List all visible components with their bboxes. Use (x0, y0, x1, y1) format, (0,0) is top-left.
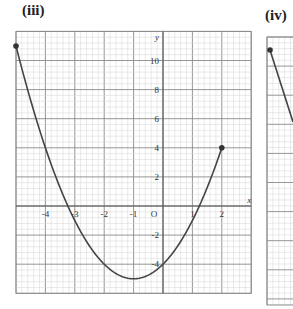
x-tick-label: -1 (130, 209, 138, 219)
curve-iv (267, 47, 293, 122)
y-tick-label: 2 (155, 172, 160, 182)
grid-iv (267, 37, 293, 305)
endpoint-dot (13, 43, 19, 49)
parabola-curve (16, 46, 222, 279)
chart-iii: -4-3-2-1O12108642-2-4xy (0, 0, 293, 309)
y-tick-label: 4 (155, 143, 160, 153)
y-axis-label: y (154, 32, 159, 42)
x-tick-label: -4 (42, 209, 50, 219)
x-tick-label: 2 (220, 209, 225, 219)
y-tick-label: 10 (150, 56, 160, 66)
x-tick-label: O (151, 209, 158, 219)
y-tick-label: 6 (155, 114, 160, 124)
x-tick-label: -2 (100, 209, 108, 219)
y-tick-label: -2 (152, 230, 160, 240)
y-tick-label: 8 (155, 85, 160, 95)
endpoint-dot (267, 47, 273, 53)
x-axis-label: x (246, 195, 251, 205)
endpoint-dot (219, 145, 225, 151)
